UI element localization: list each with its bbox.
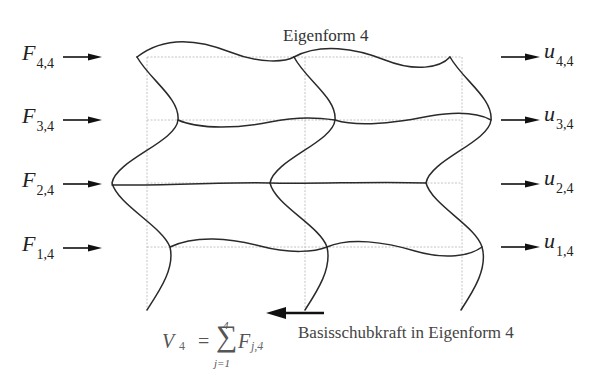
beam-floor-1-right (327, 241, 482, 256)
base-shear-caption: Basisschubkraft in Eigenform 4 (298, 323, 514, 343)
force-label-floor-2: F2,4 (22, 167, 54, 193)
base-shear-arrow (266, 307, 324, 319)
beam-floor-3-left (178, 118, 335, 127)
displacement-label-floor-1: u1,4 (544, 228, 574, 254)
arrow-icon (63, 181, 102, 188)
arrow-icon (63, 245, 102, 252)
arrow-icon (501, 54, 540, 61)
arrow-icon (501, 181, 540, 188)
arrow-icon (501, 244, 540, 251)
deformed-frame (112, 42, 491, 310)
arrow-icon (63, 117, 102, 124)
displacement-label-floor-4: u4,4 (544, 38, 574, 64)
diagram-title: Eigenform 4 (283, 26, 368, 46)
force-label-floor-3: F3,4 (22, 103, 54, 129)
beam-floor-4-right (294, 49, 450, 68)
beam-floor-2-right (270, 182, 426, 183)
base-shear-equation: V 4 = 4 ∑ j=1 F j,4 (162, 322, 272, 372)
arrow-icon (501, 117, 540, 124)
displacement-label-floor-2: u2,4 (544, 165, 574, 191)
force-label-floor-1: F1,4 (22, 231, 54, 257)
displacement-arrows (501, 54, 540, 251)
arrow-icon (63, 54, 102, 61)
beam-floor-1-left (170, 239, 327, 251)
force-label-floor-4: F4,4 (22, 40, 54, 66)
beam-floor-4-left (137, 42, 294, 61)
beam-floor-3-right (335, 113, 491, 123)
force-arrows (63, 54, 102, 252)
displacement-label-floor-3: u3,4 (544, 101, 574, 127)
